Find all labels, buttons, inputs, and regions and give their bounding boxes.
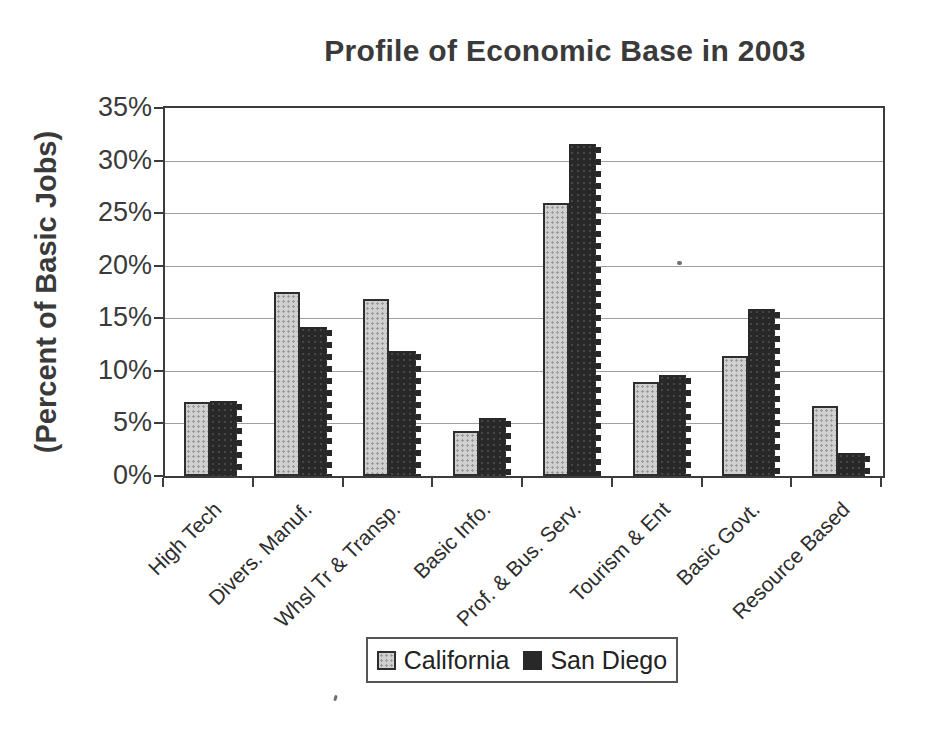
x-tick-mark [611,478,613,487]
x-axis-label-high-tech: High Tech [144,498,225,579]
x-axis-label-basic-info: Basic Info. [410,498,494,582]
bar-san-diego-basic-info [479,418,506,476]
legend-item-california: California [377,648,510,673]
y-tick-label: 25% [0,199,152,226]
bar-california-basic-govt [722,356,748,476]
y-tick-mark [154,370,163,372]
bar-california-divers-manuf [274,292,300,476]
legend: CaliforniaSan Diego [366,637,678,683]
bar-san-diego-resource-based [838,453,865,476]
y-tick-mark [154,265,163,267]
y-tick-label: 0% [0,462,152,489]
x-tick-mark [431,478,433,487]
legend-item-san-diego: San Diego [523,648,667,673]
plot-area [163,106,885,478]
bar-san-diego-divers-manuf [300,327,327,476]
x-tick-mark [521,478,523,487]
bar-california-resource-based [812,406,838,476]
bar-san-diego-tourism-ent [659,375,686,476]
bar-california-basic-info [453,431,479,476]
bar-california-high-tech [184,402,210,476]
y-tick-label: 20% [0,252,152,279]
gridline [165,266,883,267]
x-tick-mark [701,478,703,487]
y-tick-label: 30% [0,147,152,174]
bar-california-tourism-ent [633,382,659,476]
legend-swatch-california [377,651,396,670]
scan-speck [677,261,682,265]
gridline [165,161,883,162]
legend-label-california: California [404,648,510,673]
x-tick-mark [162,478,164,487]
bar-california-prof-bus-serv [543,203,569,476]
y-tick-mark [154,107,163,109]
bar-san-diego-prof-bus-serv [569,144,596,476]
x-tick-mark [342,478,344,487]
x-tick-mark [252,478,254,487]
y-tick-label: 5% [0,409,152,436]
y-tick-mark [154,212,163,214]
scanned-chart-page: Profile of Economic Base in 2003 (Percen… [0,0,932,730]
gridline [165,213,883,214]
bar-san-diego-basic-govt [748,309,775,476]
y-axis-title: (Percent of Basic Jobs) [30,131,63,453]
y-tick-label: 15% [0,304,152,331]
y-tick-mark [154,317,163,319]
y-tick-label: 10% [0,357,152,384]
x-tick-mark [880,478,882,487]
legend-swatch-san-diego [523,651,542,670]
bar-california-whsl-tr-transp [363,299,389,476]
chart-title: Profile of Economic Base in 2003 [200,34,930,68]
x-axis-label-basic-govt: Basic Govt. [672,498,763,589]
y-tick-label: 35% [0,94,152,121]
y-tick-mark [154,475,163,477]
y-tick-mark [154,160,163,162]
y-tick-mark [154,422,163,424]
scan-speck [333,695,338,702]
bar-san-diego-whsl-tr-transp [389,351,416,476]
bar-san-diego-high-tech [210,401,237,476]
legend-label-san-diego: San Diego [550,648,667,673]
x-tick-mark [790,478,792,487]
